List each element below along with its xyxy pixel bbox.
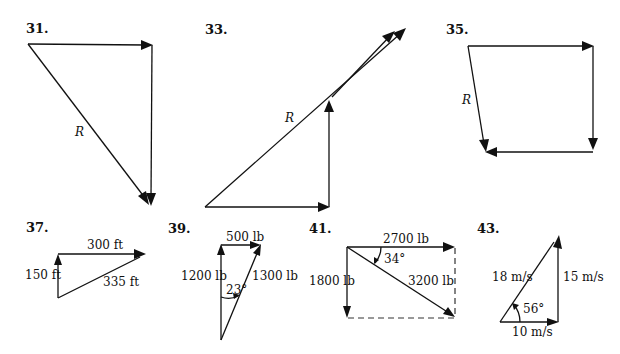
arrowhead-icon bbox=[318, 202, 330, 212]
figure-number: 35. bbox=[446, 22, 469, 37]
resultant-label: R bbox=[74, 125, 84, 139]
arrowhead-icon bbox=[588, 138, 598, 150]
vector-diagonal bbox=[332, 36, 390, 97]
vector-resultant bbox=[205, 33, 401, 207]
label-150ft: 150 ft bbox=[25, 268, 61, 282]
arrowhead-icon bbox=[382, 31, 395, 43]
arrowhead-icon bbox=[343, 306, 351, 318]
label-10ms: 10 m/s bbox=[512, 325, 553, 339]
arrowhead-icon bbox=[324, 100, 334, 112]
arrowhead-icon bbox=[479, 139, 489, 152]
figure-number: 39. bbox=[168, 221, 191, 236]
figure-number: 43. bbox=[477, 221, 500, 236]
label-angle-56: 56° bbox=[523, 302, 544, 316]
resultant-label: R bbox=[461, 93, 471, 107]
label-angle-23: 23° bbox=[226, 283, 247, 297]
vector-diagrams-page: 31. R 33. R 35. R 37. bbox=[0, 0, 620, 354]
figure-41: 41. 34° 2700 lb 1800 lb 3200 lb bbox=[309, 221, 455, 318]
arrowhead-icon bbox=[512, 303, 519, 310]
resultant-label: R bbox=[284, 111, 294, 125]
label-1300lb: 1300 lb bbox=[252, 269, 298, 283]
label-angle-34: 34° bbox=[384, 252, 405, 266]
arrowhead-icon bbox=[443, 307, 455, 317]
arrowhead-icon bbox=[443, 242, 455, 252]
figure-number: 31. bbox=[26, 21, 49, 36]
figure-33: 33. R bbox=[205, 22, 406, 212]
label-3200lb: 3200 lb bbox=[408, 274, 454, 288]
vector-resultant bbox=[28, 44, 145, 198]
figure-39: 39. 23° 500 lb 1200 lb 1300 lb bbox=[168, 221, 298, 340]
label-18ms: 18 m/s bbox=[492, 270, 533, 284]
arrowhead-icon bbox=[582, 41, 594, 51]
label-300ft: 300 ft bbox=[87, 238, 123, 252]
label-500lb: 500 lb bbox=[226, 230, 265, 244]
figure-number: 37. bbox=[26, 220, 49, 235]
label-2700lb: 2700 lb bbox=[383, 232, 429, 246]
label-15ms: 15 m/s bbox=[563, 270, 604, 284]
arrowhead-icon bbox=[54, 254, 62, 265]
vector-vertical bbox=[151, 45, 152, 198]
label-1200lb: 1200 lb bbox=[181, 269, 227, 283]
label-335ft: 335 ft bbox=[103, 275, 139, 289]
figure-35: 35. R bbox=[446, 22, 598, 157]
figure-31: 31. R bbox=[26, 21, 156, 206]
vector-horizontal bbox=[28, 44, 146, 45]
label-1800lb: 1800 lb bbox=[309, 274, 355, 288]
figure-number: 33. bbox=[205, 22, 228, 37]
figure-37: 37. 300 ft 150 ft 335 ft bbox=[25, 220, 146, 298]
figure-number: 41. bbox=[309, 221, 332, 236]
arrowhead-icon bbox=[141, 40, 153, 50]
figure-43: 43. 56° 18 m/s 15 m/s 10 m/s bbox=[477, 221, 604, 339]
arrowhead-icon bbox=[553, 235, 562, 249]
